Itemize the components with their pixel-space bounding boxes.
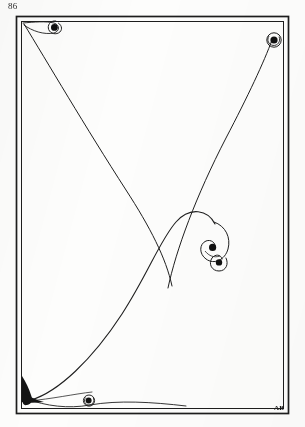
bottom-left-spiral-dot: [86, 398, 92, 404]
page-number: 86: [8, 1, 17, 12]
paper-background: [0, 0, 305, 427]
illustration-plate: [0, 0, 305, 427]
artist-monogram: AB: [274, 404, 284, 412]
center-spiral-upper-dot: [209, 244, 216, 251]
decorative-plate-svg: [0, 0, 305, 427]
center-spiral-lower-dot: [216, 259, 222, 265]
top-right-spiral-dot: [270, 36, 277, 43]
top-left-spiral-dot: [51, 24, 58, 31]
